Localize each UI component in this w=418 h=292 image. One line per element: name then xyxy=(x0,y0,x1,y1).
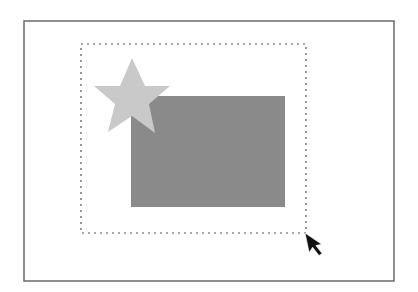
gray-rectangle-shape[interactable] xyxy=(131,96,285,207)
drawing-canvas[interactable] xyxy=(0,0,418,292)
